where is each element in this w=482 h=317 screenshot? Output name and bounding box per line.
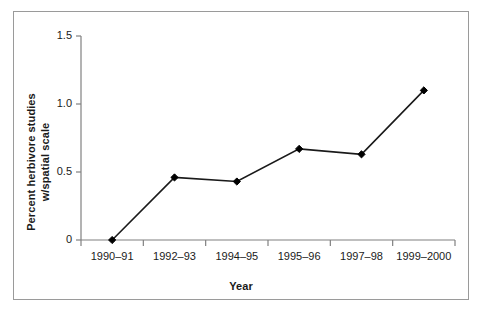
- x-tick-label: 1999–2000: [379, 250, 469, 262]
- y-tick-label: 1.5: [32, 29, 72, 41]
- y-axis-title-line: Percent herbivore studies: [24, 62, 38, 262]
- figure-root: 00.51.01.5 1990–911992–931994–951995–961…: [0, 0, 482, 317]
- plot-area: [0, 0, 482, 317]
- data-point-marker: [233, 178, 240, 185]
- axes-group: [76, 36, 455, 246]
- series-group: [109, 87, 428, 244]
- y-axis-title: Percent herbivore studiesw/spatial scale: [24, 62, 52, 262]
- data-line: [112, 90, 424, 240]
- y-axis-title-line: w/spatial scale: [38, 62, 52, 262]
- data-point-marker: [296, 145, 303, 152]
- x-axis-title: Year: [0, 280, 482, 292]
